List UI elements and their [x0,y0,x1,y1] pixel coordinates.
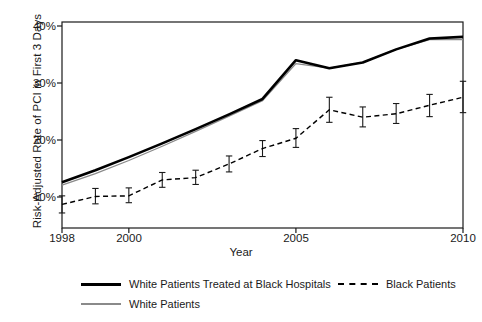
dashed-black-line-icon [338,278,378,290]
plot-frame [62,22,463,228]
chart-legend: White Patients Treated at Black Hospital… [0,274,482,320]
legend-label-white-black-hospitals: White Patients Treated at Black Hospital… [129,278,331,290]
chart-figure: Risk-Adjusted Rate of PCI in First 3 Day… [0,0,482,322]
legend-item-white-black-hospitals: White Patients Treated at Black Hospital… [81,278,331,290]
white-patients-black-hospitals-line [62,37,463,182]
y-axis-ticks [57,26,62,197]
thin-gray-line-icon [81,298,121,310]
x-axis-ticks [62,228,463,233]
legend-label-white-patients: White Patients [129,298,200,310]
legend-item-white-patients: White Patients [81,298,200,310]
legend-label-black-patients: Black Patients [386,278,456,290]
thick-black-line-icon [81,278,121,290]
legend-item-black-patients: Black Patients [338,278,456,290]
